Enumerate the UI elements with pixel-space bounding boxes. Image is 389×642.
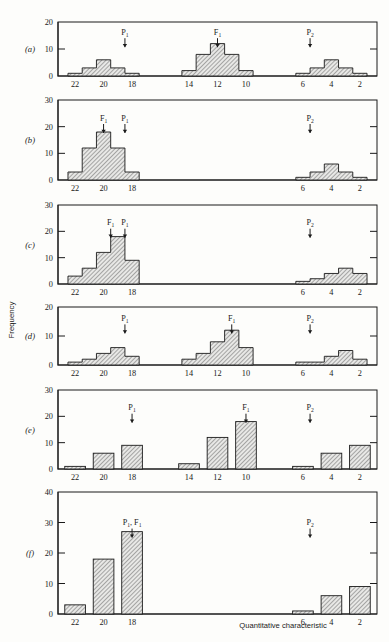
y-tick-label: 30	[45, 519, 53, 528]
panel-a: 01020(a)222018141210642P1F1P2	[25, 18, 377, 88]
x-tick-label: 22	[71, 184, 79, 193]
y-tick-label: 20	[45, 227, 53, 236]
x-tick-label: 22	[71, 288, 79, 297]
x-tick-label: 2	[358, 369, 362, 378]
marker-arrowhead	[123, 44, 127, 47]
y-tick-label: 0	[49, 72, 53, 81]
x-tick-label: 6	[301, 184, 305, 193]
panel-d: 01020(d)222018141210642P1F1P2	[25, 303, 377, 377]
histogram-P1-F1-overlap	[68, 132, 139, 180]
marker-label: P2	[306, 218, 314, 228]
x-tick-label: 6	[301, 473, 305, 482]
marker-label: P1	[121, 218, 129, 228]
bar-F1-hybrid-10	[236, 422, 257, 469]
x-tick-label: 20	[99, 80, 107, 89]
x-tick-label: 20	[99, 618, 107, 627]
histogram-P1-parent	[68, 60, 139, 76]
panel-letter: (e)	[25, 425, 35, 435]
x-tick-label: 6	[301, 369, 305, 378]
marker-label: P2	[306, 28, 314, 38]
marker-label: P2	[306, 314, 314, 324]
marker-label: F1	[214, 28, 222, 38]
panel-f: 010203040(f)222018642P1, F1P2	[26, 488, 377, 626]
marker-label: P1	[121, 314, 129, 324]
histogram-P2-parent	[296, 60, 367, 76]
bar-P2-parent-4	[321, 453, 342, 469]
panel-c: 0102030(c)222018642F1P1P2	[25, 201, 377, 296]
marker-arrowhead	[308, 130, 312, 133]
bar-F1-hybrid-14	[179, 464, 200, 469]
y-tick-label: 10	[45, 439, 53, 448]
x-tick-label: 6	[301, 80, 305, 89]
x-tick-label: 20	[99, 369, 107, 378]
marker-label: F1	[107, 218, 115, 228]
x-tick-label: 22	[71, 618, 79, 627]
y-tick-label: 10	[45, 45, 53, 54]
x-tick-label: 18	[128, 80, 136, 89]
marker-arrowhead	[130, 420, 134, 423]
x-tick-label: 6	[301, 288, 305, 297]
panel-letter: (d)	[25, 331, 35, 341]
x-tick-label: 2	[358, 473, 362, 482]
x-tick-label: 4	[329, 288, 334, 297]
bar-P1-parent-20	[93, 453, 114, 469]
panel-b: 0102030(b)222018642F1P1P2	[25, 96, 377, 192]
y-tick-label: 10	[45, 332, 53, 341]
y-tick-label: 20	[45, 123, 53, 132]
x-tick-label: 2	[358, 288, 362, 297]
panel-e: 0102030(e)222018141210642P1F1P2	[25, 386, 377, 481]
x-tick-label: 18	[128, 369, 136, 378]
histogram-F1-hybrid	[182, 44, 253, 76]
x-tick-label: 4	[329, 184, 334, 193]
marker-label: F1	[242, 403, 250, 413]
marker-arrowhead	[123, 330, 127, 333]
x-tick-label: 22	[71, 369, 79, 378]
marker-arrowhead	[308, 235, 312, 238]
x-tick-label: 2	[358, 618, 362, 627]
bar-P1-parent-18	[122, 445, 143, 469]
histogram-P2-skewed	[296, 268, 367, 284]
marker-label: P2	[306, 518, 314, 528]
marker-label: P1, F1	[123, 518, 142, 528]
bar-P2-parent-2	[350, 587, 371, 614]
marker-arrowhead	[308, 330, 312, 333]
y-tick-label: 10	[45, 254, 53, 263]
x-tick-label: 14	[185, 473, 194, 482]
y-tick-label: 0	[49, 280, 53, 289]
marker-arrowhead	[308, 44, 312, 47]
panel-letter: (b)	[25, 135, 35, 145]
x-tick-label: 4	[329, 369, 334, 378]
y-tick-label: 20	[45, 549, 53, 558]
figure-container: 01020(a)222018141210642P1F1P20102030(b)2…	[0, 0, 389, 642]
histogram-P1-F1-skewed	[68, 237, 139, 284]
marker-label: F1	[100, 114, 108, 124]
x-tick-label: 2	[358, 184, 362, 193]
x-tick-label: 18	[128, 473, 136, 482]
marker-label: F1	[228, 314, 236, 324]
bar-P1-F1-overlap-22	[65, 605, 86, 614]
x-tick-label: 14	[185, 369, 194, 378]
y-tick-label: 0	[49, 361, 53, 370]
y-tick-label: 20	[45, 412, 53, 421]
histogram-F1-skewed	[182, 330, 253, 365]
bar-F1-hybrid-12	[207, 437, 228, 469]
panel-letter: (a)	[25, 44, 35, 54]
bar-P2-parent-6	[293, 611, 314, 614]
x-tick-label: 12	[213, 369, 221, 378]
x-tick-label: 18	[128, 184, 136, 193]
bar-P1-F1-overlap-18	[122, 532, 143, 614]
x-tick-label: 4	[329, 80, 334, 89]
x-tick-label: 14	[185, 80, 194, 89]
marker-label: P1	[121, 114, 129, 124]
y-tick-label: 0	[49, 465, 53, 474]
bar-P2-parent-2	[350, 445, 371, 469]
y-axis-title: Frequency	[7, 301, 16, 338]
x-tick-label: 20	[99, 184, 107, 193]
x-tick-label: 12	[213, 80, 221, 89]
x-tick-label: 2	[358, 80, 362, 89]
histogram-P2-parent	[296, 164, 367, 180]
x-tick-label: 4	[329, 618, 334, 627]
marker-arrowhead	[308, 420, 312, 423]
panel-letter: (c)	[25, 240, 35, 250]
x-tick-label: 10	[242, 369, 250, 378]
